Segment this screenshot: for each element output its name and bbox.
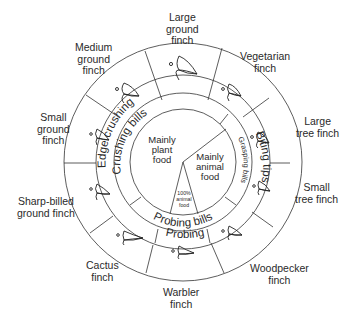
label-warbler-finch: Warbler finch — [163, 287, 199, 310]
warbler-finch-beak-icon — [172, 246, 194, 259]
svg-text:food: food — [179, 202, 189, 208]
food-animal-label: Mainly animal food — [196, 151, 224, 182]
cactus-finch-beak-icon — [117, 231, 143, 245]
large-ground-finch-beak-icon — [169, 56, 197, 80]
label-woodpecker-finch: Woodpecker finch — [250, 263, 309, 286]
label-cactus-finch: Cactus finch — [86, 260, 119, 283]
label-grasping-bills: Grasping bills — [236, 135, 251, 184]
svg-text:food: food — [153, 154, 172, 165]
label-large-tree-finch: Large tree finch — [296, 116, 339, 139]
label-small-tree-finch: Small tree finch — [295, 182, 338, 205]
label-small-ground-finch: Small ground finch — [37, 112, 70, 147]
label-probing: Probing — [165, 226, 205, 240]
label-crushing-bills: Crushing bills — [110, 106, 149, 175]
vegetarian-finch-beak-icon — [222, 84, 241, 101]
label-vegetarian-finch: Vegetarian finch — [240, 51, 290, 74]
label-large-ground-finch: Large ground finch — [166, 12, 199, 47]
food-plant-label: Mainly plant food — [148, 134, 176, 165]
label-probing-bills: Probing bills — [152, 210, 214, 229]
label-sharp-billed-ground-finch: Sharp-billed ground finch — [17, 196, 75, 219]
food-100-animal-label: 100% animal food — [176, 190, 191, 208]
svg-text:food: food — [201, 171, 220, 182]
label-medium-ground-finch: Medium ground finch — [75, 42, 112, 77]
